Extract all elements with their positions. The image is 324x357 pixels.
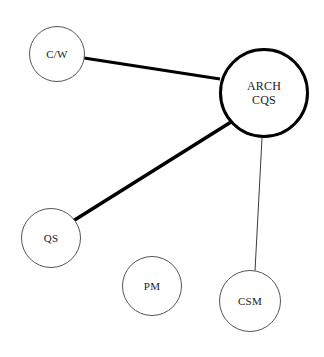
node-csm-label: CSM — [238, 295, 262, 308]
node-cw-label: C/W — [46, 48, 67, 61]
node-pm-label: PM — [144, 280, 160, 293]
node-csm[interactable]: CSM — [219, 270, 281, 332]
edge-arch-cqs-to-csm[interactable] — [255, 138, 262, 271]
node-arch-cqs[interactable]: ARCH CQS — [219, 48, 309, 138]
node-qs[interactable]: QS — [21, 208, 81, 268]
edge-cw-to-arch-cqs[interactable] — [84, 58, 220, 79]
edge-qs-to-arch-cqs[interactable] — [73, 122, 231, 221]
node-qs-label: QS — [44, 232, 58, 245]
network-diagram-canvas: C/W ARCH CQS QS PM CSM — [0, 0, 324, 357]
node-pm[interactable]: PM — [122, 256, 182, 316]
node-arch-cqs-label: ARCH CQS — [247, 79, 281, 107]
node-cw[interactable]: C/W — [29, 26, 85, 82]
